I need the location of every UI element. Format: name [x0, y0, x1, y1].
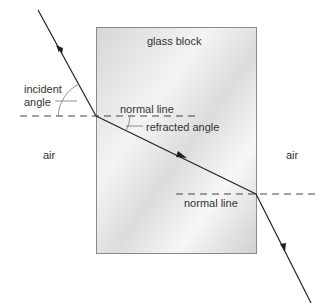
normal-line-label-2: normal line — [184, 197, 238, 209]
arrow-icon — [280, 243, 286, 252]
refracted-angle-label: refracted angle — [146, 121, 219, 133]
air-right-label: air — [286, 149, 298, 161]
air-left-label: air — [43, 149, 55, 161]
glass-block-label: glass block — [147, 35, 201, 47]
glass-block — [97, 28, 257, 254]
normal-line-label-1: normal line — [120, 103, 174, 115]
incident-angle-label-line2: angle — [24, 96, 51, 108]
incident-angle-label-line1: incident — [24, 83, 62, 95]
